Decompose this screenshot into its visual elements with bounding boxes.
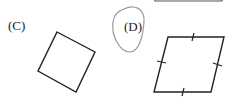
rhombus-shape: [154, 37, 224, 92]
option-c-label: (C): [8, 19, 25, 32]
figure-canvas: [0, 0, 231, 101]
option-d-label: (D): [124, 20, 142, 33]
square-shape: [38, 32, 95, 92]
partial-box-top: [155, 0, 222, 1]
